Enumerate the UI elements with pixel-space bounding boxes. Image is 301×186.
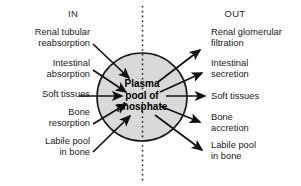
outflow-label-renal-glomerular-filtration: Renal glomerular filtration <box>211 27 301 49</box>
figure-canvas: IN OUT Plasma pool of phosphate Renal tu… <box>0 0 301 186</box>
inflow-label-intestinal-absorption: Intestinal absorption <box>4 58 90 80</box>
column-header-out: OUT <box>218 8 252 19</box>
column-header-in: IN <box>58 8 88 19</box>
inflow-label-bone-resorption: Bone resorption <box>4 107 90 129</box>
outflow-label-labile-pool-in-bone: Labile pool in bone <box>211 140 301 162</box>
inflow-label-soft-tissues: Soft tissues <box>4 89 90 100</box>
outflow-label-intestinal-secretion: Intestinal secretion <box>211 58 301 80</box>
outflow-label-bone-accretion: Bone accretion <box>211 112 301 134</box>
inflow-label-renal-tubular-reabsorption: Renal tubular reabsorption <box>4 27 90 49</box>
inflow-label-labile-pool-in-bone: Labile pool in bone <box>4 136 90 158</box>
plasma-pool-label: Plasma pool of phosphate <box>97 78 187 113</box>
outflow-label-soft-tissues: Soft tissues <box>211 91 301 102</box>
